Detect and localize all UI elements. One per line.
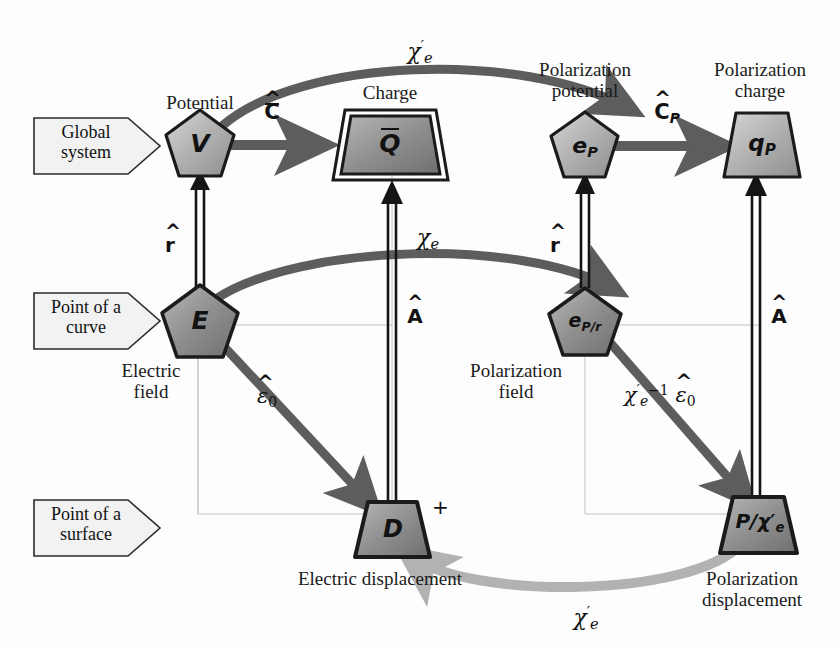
caption-polarization-potential-line2: potential bbox=[515, 80, 655, 101]
node-d-plus-marker: + bbox=[432, 496, 449, 518]
caption-polarization-potential-line1: Polarization bbox=[515, 59, 655, 80]
chi-superscript-neg1: −1 bbox=[648, 382, 668, 398]
caption-polarization-charge-line1: Polarization bbox=[690, 59, 830, 80]
caption-charge: Charge bbox=[335, 82, 445, 103]
edge-label-cp-subscript: P bbox=[670, 110, 680, 126]
caption-polarization-displacement: Polarization displacement bbox=[672, 568, 832, 611]
band-curve-line2: curve bbox=[32, 317, 140, 337]
caption-polarization-field: Polarization field bbox=[448, 360, 584, 403]
hat-mark: ^ bbox=[771, 292, 786, 313]
caption-electric-field-line2: field bbox=[103, 381, 199, 402]
eps-subscript: 0 bbox=[687, 393, 696, 409]
diagram-canvas: Global system Point of a curve Point of … bbox=[0, 0, 839, 649]
caption-electric-field: Electric field bbox=[103, 360, 199, 403]
c-hat-bar-wrap: ^ C bbox=[264, 101, 279, 125]
caption-polarization-displacement-line1: Polarization bbox=[672, 568, 832, 589]
hat-mark: ^ bbox=[165, 221, 175, 242]
band-surface-line2: surface bbox=[32, 524, 140, 544]
chi-glyph: χ bbox=[573, 605, 586, 630]
chi-subscript: e bbox=[590, 616, 599, 632]
edge-label-eps-hat-0: ^ ε 0 bbox=[240, 385, 294, 410]
r-hat-wrap: ^ r bbox=[165, 234, 175, 256]
r-hat-wrap: ^ r bbox=[550, 234, 560, 256]
edge-label-a-hat-right: ^ A bbox=[766, 305, 792, 327]
band-global-system: Global system bbox=[34, 122, 138, 162]
edge-epr-pchi-arrow bbox=[606, 338, 745, 497]
band-point-of-a-surface: Point of a surface bbox=[32, 504, 140, 544]
hat-mark: ^ bbox=[257, 371, 268, 393]
band-global-line2: system bbox=[34, 142, 138, 162]
eps-hat-wrap: ^ ε bbox=[257, 385, 268, 409]
node-epr-shape[interactable] bbox=[549, 288, 621, 355]
eps-hat-wrap: ^ε bbox=[676, 384, 687, 408]
edge-label-a-hat-left: ^ A bbox=[402, 305, 428, 327]
chi-subscript: e bbox=[424, 50, 433, 66]
hat-mark: ^ bbox=[676, 370, 687, 392]
caption-polarization-displacement-line2: displacement bbox=[672, 589, 832, 610]
hat-mark: ^ bbox=[264, 87, 279, 109]
eps-subscript: 0 bbox=[268, 394, 277, 410]
chi-glyph: χ bbox=[624, 383, 637, 407]
c-hat-p-wrap: ^ C bbox=[654, 101, 669, 125]
node-qp-shape[interactable] bbox=[724, 113, 800, 177]
chi-subscript: e bbox=[640, 393, 648, 409]
a-hat-wrap: ^ A bbox=[771, 305, 786, 327]
chi-glyph: χ bbox=[417, 225, 430, 250]
hat-mark: ^ bbox=[550, 221, 560, 242]
band-curve-line1: Point of a bbox=[32, 297, 140, 317]
chi-glyph: χ bbox=[407, 39, 420, 64]
node-q-shape[interactable] bbox=[333, 110, 448, 180]
caption-electric-displacement: Electric displacement bbox=[255, 568, 505, 589]
caption-polarization-field-line2: field bbox=[448, 381, 584, 402]
caption-polarization-potential: Polarization potential bbox=[515, 59, 655, 102]
chi-subscript: e bbox=[430, 236, 439, 252]
edge-label-chi-e-mid: χe bbox=[400, 226, 456, 252]
hat-mark: ^ bbox=[654, 87, 669, 109]
edge-label-chi-e-prime-top: χ′e bbox=[390, 38, 450, 66]
edge-label-c-hat-bar: ^ C bbox=[252, 101, 292, 125]
caption-polarization-field-line1: Polarization bbox=[448, 360, 584, 381]
overbar-mark bbox=[265, 103, 279, 105]
caption-polarization-charge-line2: charge bbox=[690, 80, 830, 101]
edge-label-r-hat-right: ^ r bbox=[542, 234, 568, 256]
edge-pchi-qp-arrow bbox=[745, 172, 767, 500]
edge-e-v-arrow bbox=[190, 170, 210, 300]
band-global-line1: Global bbox=[34, 122, 138, 142]
edge-e-d-arrow bbox=[216, 338, 370, 503]
grid-guides bbox=[198, 152, 760, 514]
edge-label-r-hat-left: ^ r bbox=[157, 234, 183, 256]
band-point-of-a-curve: Point of a curve bbox=[32, 297, 140, 337]
edge-label-c-hat-p: ^ C P bbox=[640, 101, 694, 126]
double-line-arrows bbox=[190, 170, 767, 500]
hat-mark: ^ bbox=[407, 292, 422, 313]
caption-potential: Potential bbox=[140, 92, 260, 113]
node-ep-shape[interactable] bbox=[551, 112, 618, 177]
edge-label-chi-inv-eps: χ′e−1^ε0 bbox=[624, 383, 754, 410]
caption-electric-field-line1: Electric bbox=[103, 360, 199, 381]
edge-label-chi-e-prime-bottom: χ′e bbox=[556, 604, 616, 632]
band-surface-line1: Point of a bbox=[32, 504, 140, 524]
node-d-shape[interactable] bbox=[355, 502, 430, 557]
node-pchi-shape[interactable] bbox=[720, 497, 797, 553]
caption-polarization-charge: Polarization charge bbox=[690, 59, 830, 102]
a-hat-wrap: ^ A bbox=[407, 305, 422, 327]
